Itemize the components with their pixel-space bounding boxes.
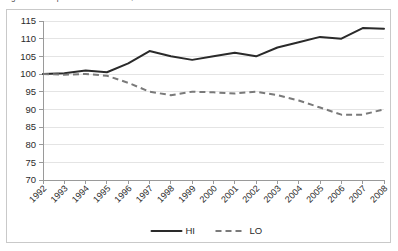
xtick-label: 2006	[326, 183, 347, 204]
ytick-label: 110	[21, 33, 36, 44]
xtick-label: 2002	[240, 183, 261, 204]
ytick-label: 80	[25, 139, 36, 150]
legend-group: HILO	[152, 225, 263, 236]
ytick-label: 75	[25, 157, 36, 168]
xtick-label: 2005	[304, 183, 325, 204]
xtick-labels-group: 1992199319941995199619971998199920002001…	[27, 183, 389, 204]
ytick-label: 90	[25, 104, 36, 115]
xtick-label: 2008	[368, 183, 389, 204]
xtick-label: 1999	[176, 183, 197, 204]
xtick-label: 2000	[198, 183, 219, 204]
xtick-label: 1997	[134, 183, 155, 204]
series-line-hi	[43, 28, 384, 74]
xtick-label: 1995	[91, 183, 112, 204]
clipped-caption-strip: Figure — comparative index trend, HI and…	[0, 0, 398, 7]
xtick-label: 2007	[347, 183, 368, 204]
ytick-labels-group: 115110105100959085807570	[20, 15, 36, 185]
ytick-label: 105	[20, 51, 36, 62]
ytick-label: 115	[21, 15, 36, 26]
ytick-label: 95	[25, 86, 36, 97]
xtick-label: 1992	[27, 183, 48, 204]
xtick-label: 1994	[70, 183, 91, 204]
ytick-label: 85	[25, 121, 36, 132]
line-chart-plot: 115110105100959085807570 199219931994199…	[7, 10, 390, 242]
xtick-label: 1998	[155, 183, 176, 204]
xtick-label: 1996	[112, 183, 133, 204]
xtick-label: 2004	[283, 183, 304, 204]
series-line-lo	[43, 74, 384, 115]
chart-frame: 115110105100959085807570 199219931994199…	[6, 9, 391, 243]
legend-label-lo: LO	[250, 225, 263, 236]
ytick-marks-group	[39, 21, 43, 180]
ytick-label: 100	[20, 68, 36, 79]
xtick-marks-group	[43, 180, 384, 184]
ytick-label: 70	[25, 174, 36, 185]
xtick-label: 1993	[48, 183, 69, 204]
xtick-label: 2001	[219, 183, 240, 204]
clipped-caption-text: Figure — comparative index trend, HI and…	[4, 0, 199, 2]
legend-label-hi: HI	[186, 225, 196, 236]
xtick-label: 2003	[262, 183, 283, 204]
